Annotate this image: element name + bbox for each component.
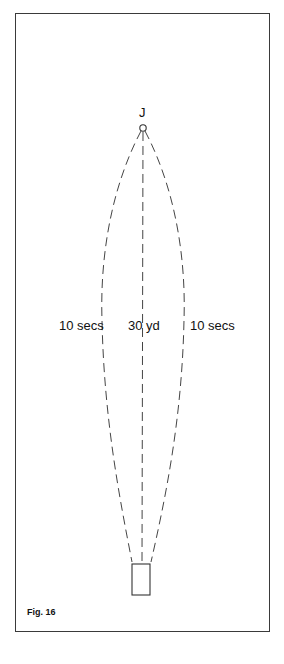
start-marker-icon [140,125,146,131]
left-path-time-label: 10 secs [59,319,104,332]
left-curved-path [102,131,141,562]
goal-box [132,564,150,595]
center-distance-label: 30 yd [128,319,160,332]
right-curved-path [145,131,184,562]
figure-caption: Fig. 16 [27,607,56,617]
start-marker-label: J [139,106,146,119]
center-straight-path [142,132,143,562]
right-path-time-label: 10 secs [190,319,235,332]
